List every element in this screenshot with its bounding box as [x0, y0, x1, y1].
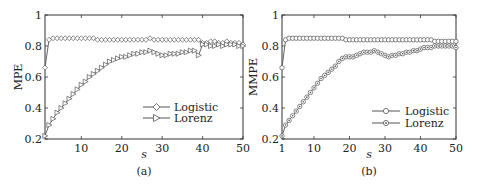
- circle-dot-center-icon: [299, 106, 301, 108]
- circle-dot-center-icon: [288, 120, 290, 122]
- circle-dot-center-icon: [349, 56, 351, 58]
- y-tick-label: 0.6: [262, 71, 280, 84]
- x-tick-label: 40: [413, 142, 427, 155]
- circle-dot-center-icon: [334, 65, 336, 67]
- legend-a: Logistic Lorenz: [143, 101, 218, 125]
- circle-dot-center-icon: [395, 55, 397, 57]
- circle-dot-center-icon: [388, 56, 390, 58]
- circle-dot-center-icon: [366, 51, 368, 53]
- y-tick-label: 0.8: [262, 40, 280, 53]
- circle-dot-center-icon: [409, 51, 411, 53]
- x-tick-label: 30: [155, 142, 169, 155]
- x-axis-label-b: s: [366, 148, 372, 161]
- diamond-marker-icon: [43, 65, 48, 70]
- x-tick-label: 20: [342, 142, 356, 155]
- x-tick-label: 40: [196, 142, 210, 155]
- series-lorenz: [43, 42, 246, 138]
- x-tick-label: 10: [74, 142, 88, 155]
- circle-dot-center-icon: [385, 122, 387, 124]
- x-axis-label-a: s: [141, 148, 147, 161]
- circle-dot-center-icon: [342, 58, 344, 60]
- plot-area-a: [45, 15, 243, 139]
- y-tick-label: 1: [272, 9, 279, 22]
- caption-b: (b): [361, 165, 377, 178]
- circle-dot-center-icon: [363, 51, 365, 53]
- circle-dot-center-icon: [317, 82, 319, 84]
- x-tick-label: 20: [115, 142, 129, 155]
- circle-dot-center-icon: [430, 47, 432, 49]
- chart-panel-b: 0.20.40.60.81 11020304050 MMPE s (b) Log…: [247, 9, 463, 178]
- circle-dot-center-icon: [352, 56, 354, 58]
- triangle-marker-icon: [51, 116, 56, 121]
- circle-dot-center-icon: [398, 53, 400, 55]
- circle-dot-center-icon: [356, 55, 358, 57]
- circle-dot-center-icon: [313, 87, 315, 89]
- x-tick-label: 1: [279, 142, 286, 155]
- x-tick-label: 50: [449, 142, 463, 155]
- legend-label-lorenz-a: Lorenz: [174, 112, 213, 125]
- legend-label-lorenz-b: Lorenz: [405, 117, 444, 130]
- x-tick-label: 30: [378, 142, 392, 155]
- circle-dot-center-icon: [445, 45, 447, 47]
- y-tick-label: 0.2: [262, 133, 280, 146]
- circle-dot-center-icon: [324, 75, 326, 77]
- circle-dot-center-icon: [437, 45, 439, 47]
- x-tick-label: 10: [307, 142, 321, 155]
- diamond-marker-icon: [153, 104, 160, 111]
- y-tick-label: 0.4: [262, 102, 280, 115]
- circle-marker-icon: [383, 108, 388, 113]
- y-tick-label: 0.2: [25, 133, 43, 146]
- circle-dot-center-icon: [427, 47, 429, 49]
- triangle-marker-icon: [47, 123, 52, 128]
- circle-dot-center-icon: [452, 45, 454, 47]
- y-tick-label: 0.4: [25, 102, 43, 115]
- y-tick-label: 0.8: [25, 40, 43, 53]
- circle-dot-center-icon: [370, 51, 372, 53]
- circle-dot-center-icon: [402, 53, 404, 55]
- y-axis-label-b: MMPE: [247, 58, 260, 96]
- legend-b: Logistic Lorenz: [372, 105, 449, 130]
- circle-dot-center-icon: [374, 50, 376, 52]
- circle-dot-center-icon: [295, 110, 297, 112]
- circle-dot-center-icon: [381, 53, 383, 55]
- circle-dot-center-icon: [455, 47, 457, 49]
- circle-dot-center-icon: [306, 96, 308, 98]
- series-group-a: [43, 36, 246, 139]
- circle-dot-center-icon: [405, 51, 407, 53]
- y-axis-ticks-a: 0.20.40.60.81: [25, 9, 244, 146]
- series-line: [45, 44, 243, 135]
- circle-dot-center-icon: [310, 92, 312, 94]
- figure: 0.20.40.60.81 1020304050 MPE s (a) Logis…: [0, 0, 496, 187]
- y-tick-label: 0.6: [25, 71, 43, 84]
- circle-dot-center-icon: [320, 78, 322, 80]
- circle-marker-icon: [454, 39, 458, 43]
- circle-dot-center-icon: [359, 53, 361, 55]
- circle-dot-center-icon: [434, 45, 436, 47]
- circle-dot-center-icon: [292, 115, 294, 117]
- chart-panel-a: 0.20.40.60.81 1020304050 MPE s (a) Logis…: [12, 9, 250, 178]
- x-axis-ticks-a: 1020304050: [74, 15, 250, 155]
- circle-dot-center-icon: [281, 135, 283, 137]
- circle-dot-center-icon: [345, 56, 347, 58]
- circle-dot-center-icon: [391, 55, 393, 57]
- circle-dot-center-icon: [416, 50, 418, 52]
- caption-a: (a): [136, 165, 151, 178]
- circle-dot-center-icon: [285, 124, 287, 126]
- circle-dot-center-icon: [331, 68, 333, 70]
- circle-dot-center-icon: [303, 101, 305, 103]
- circle-dot-center-icon: [377, 51, 379, 53]
- y-tick-label: 1: [35, 9, 42, 22]
- circle-dot-center-icon: [420, 48, 422, 50]
- y-axis-label-a: MPE: [12, 64, 25, 91]
- circle-dot-center-icon: [327, 72, 329, 74]
- circle-marker-icon: [280, 66, 284, 70]
- circle-dot-center-icon: [338, 61, 340, 63]
- triangle-marker-icon: [154, 115, 161, 122]
- circle-dot-center-icon: [448, 45, 450, 47]
- x-tick-label: 50: [236, 142, 250, 155]
- circle-dot-center-icon: [384, 55, 386, 57]
- circle-dot-center-icon: [441, 45, 443, 47]
- circle-dot-center-icon: [413, 50, 415, 52]
- circle-dot-center-icon: [423, 47, 425, 49]
